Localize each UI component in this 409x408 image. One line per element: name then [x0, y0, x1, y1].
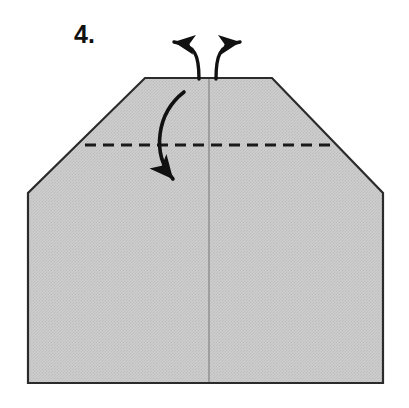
origami-figure — [0, 0, 409, 408]
arrow-top-right-outward — [216, 42, 240, 79]
origami-diagram: 4. — [0, 0, 409, 408]
arrow-top-left-outward — [174, 42, 199, 79]
folded-paper-shape — [28, 78, 383, 383]
step-number-label: 4. — [74, 22, 95, 47]
